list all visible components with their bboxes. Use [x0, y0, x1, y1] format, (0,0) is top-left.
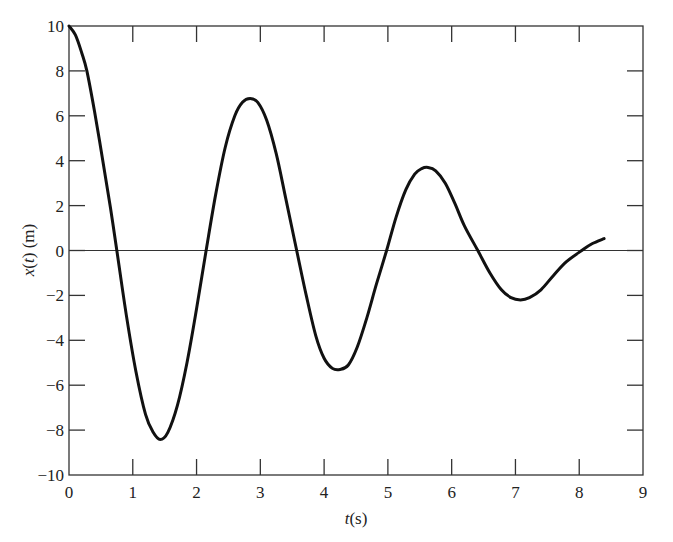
x-tick-label: 8	[575, 483, 584, 502]
y-tick-label: 6	[56, 107, 65, 126]
y-tick-label: −10	[37, 466, 64, 485]
x-tick-label: 4	[320, 483, 329, 502]
y-tick-label: 8	[56, 62, 65, 81]
x-tick-label: 3	[256, 483, 265, 502]
x-tick-label: 7	[511, 483, 520, 502]
chart: 0123456789 −10−8−6−4−20246810 t(s) x(t) …	[0, 0, 673, 542]
y-axis-label: x(t) (m)	[19, 224, 38, 277]
y-tick-label: −4	[46, 331, 65, 350]
y-tick-label: −2	[46, 286, 64, 305]
y-tick-label: 10	[47, 17, 64, 36]
x-tick-label: 0	[65, 483, 74, 502]
x-tick-label: 6	[447, 483, 456, 502]
series-line-x-of-t	[69, 26, 604, 440]
x-tick-label: 2	[192, 483, 201, 502]
x-axis-label: t(s)	[345, 509, 368, 528]
x-tick-label: 1	[129, 483, 138, 502]
y-axis-label-unit: ) (m)	[19, 224, 38, 258]
x-tick-label: 5	[384, 483, 393, 502]
y-tick-label: 4	[56, 152, 65, 171]
y-tick-label: 0	[56, 242, 65, 261]
y-tick-label: 2	[56, 197, 65, 216]
y-tick-label: −6	[46, 376, 64, 395]
x-tick-label: 9	[639, 483, 648, 502]
x-axis-label-unit: (s)	[349, 509, 367, 528]
y-tick-label: −8	[46, 421, 64, 440]
